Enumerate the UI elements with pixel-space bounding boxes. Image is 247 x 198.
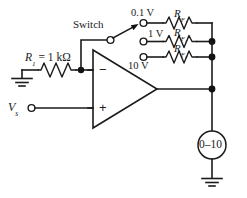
source-label-1v: 1 V bbox=[148, 29, 163, 40]
rf1-symbol: R bbox=[174, 7, 181, 19]
rf1-subscript: F₁ bbox=[181, 16, 188, 23]
circuit-schematic-svg bbox=[0, 0, 247, 198]
rf3-subscript: F₃ bbox=[181, 51, 188, 58]
rf3-symbol: R bbox=[174, 42, 181, 54]
input-ground-symbol bbox=[12, 70, 32, 86]
source-label-0p1v: 0.1 V bbox=[131, 8, 154, 19]
switch-arrowhead-icon bbox=[131, 24, 139, 30]
rf2-label: RF₂ bbox=[174, 27, 187, 41]
terminal-vs[interactable] bbox=[28, 105, 35, 112]
circuit-diagram: Switch R1 = 1 kΩ Vs 0.1 V 1 V 10 V RF₁ R… bbox=[0, 0, 247, 198]
opamp-minus-sign: − bbox=[99, 63, 107, 76]
r1-label: R1 = 1 kΩ bbox=[25, 52, 71, 66]
r1-value: = 1 kΩ bbox=[36, 51, 71, 63]
meter-range-label: 0–10 bbox=[199, 139, 222, 151]
rf1-label: RF₁ bbox=[174, 8, 187, 22]
terminal-0p1v[interactable] bbox=[140, 20, 147, 27]
meter-ground-symbol bbox=[202, 179, 222, 187]
branch-vs bbox=[28, 105, 93, 112]
source-label-10v: 10 V bbox=[128, 61, 149, 72]
opamp-plus-sign: + bbox=[99, 101, 107, 114]
rf3-label: RF₃ bbox=[174, 43, 187, 57]
selector-switch[interactable] bbox=[107, 24, 138, 43]
output-node-dot bbox=[209, 86, 216, 93]
r1-subscript: 1 bbox=[32, 60, 36, 68]
vs-subscript: s bbox=[15, 109, 18, 118]
r1-symbol: R bbox=[25, 51, 32, 63]
terminal-1v[interactable] bbox=[140, 38, 147, 45]
vs-label: Vs bbox=[8, 101, 18, 116]
rf2-symbol: R bbox=[174, 26, 181, 38]
rf2-subscript: F₂ bbox=[181, 35, 188, 42]
switch-label: Switch bbox=[73, 19, 104, 30]
